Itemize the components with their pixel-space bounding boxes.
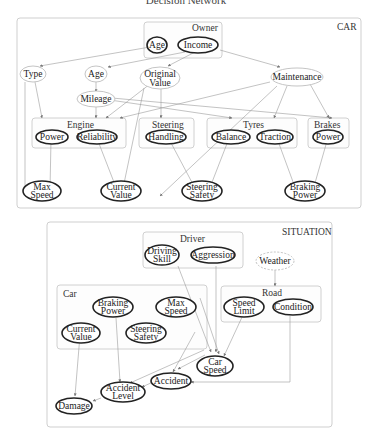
node-maintenance[interactable]: Maintenance — [271, 68, 323, 86]
node-max-speed[interactable]: Max Speed — [23, 181, 61, 201]
svg-text:Limit: Limit — [233, 306, 254, 316]
svg-text:Balance: Balance — [216, 132, 247, 142]
decision-network-diagram: CAR Owner Engine Steering Tyres Brakes S… — [0, 0, 372, 436]
node-damage[interactable]: Damage — [56, 398, 92, 414]
svg-text:Speed: Speed — [203, 365, 226, 375]
svg-text:Aggression: Aggression — [191, 250, 235, 260]
node-tyres-traction[interactable]: Traction — [257, 130, 293, 144]
node-situation-current-value[interactable]: Current Value — [62, 323, 100, 343]
svg-text:Income: Income — [184, 40, 213, 50]
svg-text:Mileage: Mileage — [80, 94, 111, 104]
svg-text:Handling: Handling — [148, 132, 184, 142]
svg-text:Power: Power — [101, 306, 126, 316]
svg-text:Power: Power — [293, 190, 318, 200]
svg-text:Safety: Safety — [190, 190, 215, 200]
svg-text:Speed: Speed — [164, 306, 187, 316]
node-age[interactable]: Age — [85, 66, 107, 82]
svg-text:Traction: Traction — [259, 132, 291, 142]
svg-text:Level: Level — [112, 391, 134, 401]
node-engine-reliability[interactable]: Reliability — [77, 130, 117, 144]
svg-text:Value: Value — [70, 332, 92, 342]
node-mileage[interactable]: Mileage — [77, 91, 115, 107]
car-cluster-label: CAR — [337, 22, 357, 32]
svg-text:Value: Value — [149, 78, 171, 88]
node-accident-level[interactable]: Accident Level — [101, 382, 145, 402]
svg-text:Damage: Damage — [58, 401, 90, 411]
node-condition[interactable]: Condition — [273, 299, 313, 315]
driver-group-label: Driver — [180, 234, 206, 244]
svg-text:Type: Type — [24, 69, 43, 79]
node-aggression[interactable]: Aggression — [191, 247, 235, 263]
svg-text:Skill: Skill — [153, 254, 171, 264]
tyres-group-label: Tyres — [243, 120, 264, 130]
owner-group-label: Owner — [192, 23, 219, 33]
node-current-value[interactable]: Current Value — [101, 181, 141, 201]
node-steering-handling[interactable]: Handling — [146, 130, 186, 144]
node-weather[interactable]: Weather — [256, 252, 294, 270]
node-situation-max-speed[interactable]: Max Speed — [156, 297, 196, 317]
svg-text:Accident: Accident — [154, 376, 189, 386]
svg-text:Maintenance: Maintenance — [272, 72, 321, 82]
node-brakes-power[interactable]: Power — [313, 130, 343, 144]
svg-text:Speed: Speed — [30, 190, 53, 200]
svg-text:Power: Power — [40, 132, 65, 142]
svg-text:Age: Age — [88, 69, 104, 79]
node-tyres-balance[interactable]: Balance — [212, 130, 250, 144]
node-engine-power[interactable]: Power — [36, 130, 68, 144]
node-owner-age[interactable]: Age — [147, 37, 167, 53]
svg-text:Reliability: Reliability — [77, 132, 117, 142]
svg-text:Condition: Condition — [274, 302, 312, 312]
engine-group-label: Engine — [67, 120, 94, 130]
svg-text:Age: Age — [149, 40, 165, 50]
node-speed-limit[interactable]: Speed Limit — [224, 297, 264, 317]
node-braking-power[interactable]: Braking Power — [285, 181, 325, 201]
node-situation-steering-safety[interactable]: Steering Safety — [126, 323, 166, 343]
svg-text:Power: Power — [316, 132, 341, 142]
svg-text:Value: Value — [110, 190, 132, 200]
node-steering-safety[interactable]: Steering Safety — [182, 181, 222, 201]
svg-text:Weather: Weather — [259, 256, 291, 266]
situation-car-group-label: Car — [63, 289, 78, 299]
road-group-label: Road — [262, 288, 282, 298]
node-situation-braking-power[interactable]: Braking Power — [93, 297, 133, 317]
node-driving-skill[interactable]: Driving Skill — [145, 245, 179, 265]
node-type[interactable]: Type — [20, 66, 46, 82]
node-accident[interactable]: Accident — [151, 373, 191, 389]
situation-cluster-label: SITUATION — [282, 227, 332, 237]
node-original-value[interactable]: Original Value — [140, 67, 180, 89]
node-car-speed[interactable]: Car Speed — [197, 356, 233, 376]
steering-group-label: Steering — [152, 120, 184, 130]
svg-text:Safety: Safety — [134, 332, 159, 342]
brakes-group-label: Brakes — [314, 120, 341, 130]
node-owner-income[interactable]: Income — [178, 37, 218, 53]
